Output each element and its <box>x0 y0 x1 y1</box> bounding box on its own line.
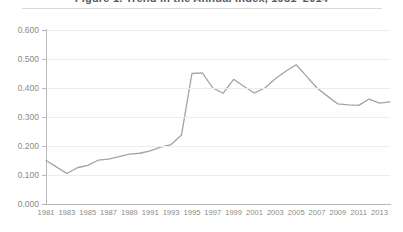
y-axis-tick <box>42 204 47 205</box>
y-axis-tick <box>42 117 47 118</box>
gridline <box>46 146 390 147</box>
x-axis-label: 1983 <box>58 209 75 217</box>
x-axis-label: 2011 <box>351 209 367 217</box>
x-axis-labels: 1981198319851987198919911993199519971999… <box>0 209 403 223</box>
x-axis-label: 1981 <box>38 209 55 217</box>
y-axis-label: 0.300 <box>3 113 39 122</box>
x-axis-label: 2013 <box>371 209 388 217</box>
plot-area <box>46 30 390 204</box>
x-axis-label: 2005 <box>288 209 305 217</box>
y-axis-label: 0.400 <box>3 84 39 93</box>
x-axis-label: 1995 <box>183 209 200 217</box>
gridline <box>46 117 390 118</box>
gridline <box>46 175 390 176</box>
chart-title-band: Figure 1. Trend in the Annual Index, 198… <box>0 0 403 7</box>
y-axis-tick <box>42 88 47 89</box>
x-axis-label: 1987 <box>100 209 117 217</box>
y-axis-label: 0.200 <box>3 142 39 151</box>
y-axis-tick <box>42 59 47 60</box>
x-axis-label: 2003 <box>267 209 284 217</box>
gridline <box>46 88 390 89</box>
title-divider <box>22 8 382 9</box>
y-axis-labels: 0.0000.1000.2000.3000.4000.5000.600 <box>0 0 39 232</box>
y-axis-tick <box>42 175 47 176</box>
gridline <box>46 30 390 31</box>
x-axis-line <box>46 204 391 205</box>
y-axis-tick <box>42 146 47 147</box>
x-axis-label: 1989 <box>121 209 138 217</box>
chart-container: Figure 1. Trend in the Annual Index, 198… <box>0 0 403 232</box>
x-axis-label: 2007 <box>309 209 326 217</box>
x-axis-label: 2001 <box>246 209 263 217</box>
x-axis-label: 2009 <box>329 209 346 217</box>
x-axis-label: 1985 <box>79 209 96 217</box>
x-axis-label: 1997 <box>204 209 221 217</box>
x-axis-label: 1999 <box>225 209 242 217</box>
x-axis-label: 1993 <box>163 209 180 217</box>
y-axis-label: 0.500 <box>3 55 39 64</box>
y-axis-label: 0.100 <box>3 171 39 180</box>
y-axis-label: 0.000 <box>3 200 39 209</box>
y-axis-label: 0.600 <box>3 26 39 35</box>
page-title: Figure 1. Trend in the Annual Index, 198… <box>0 0 403 4</box>
gridline <box>46 59 390 60</box>
x-axis-label: 1991 <box>142 209 159 217</box>
y-axis-tick <box>42 30 47 31</box>
